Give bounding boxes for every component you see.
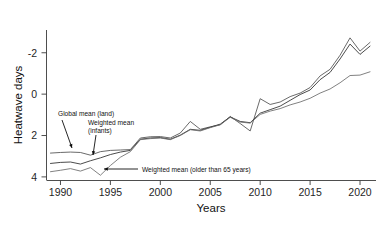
annotation-label: Global mean (land): [58, 110, 114, 118]
x-tick-label: 1995: [99, 186, 123, 198]
x-axis-title: Years: [197, 202, 226, 214]
x-tick-label: 1990: [49, 186, 73, 198]
x-tick-label: 2005: [199, 186, 223, 198]
x-tick-label: 2020: [348, 186, 372, 198]
x-tick-label: 2000: [149, 186, 173, 198]
annotation-label: (infants): [88, 127, 112, 135]
annotation-label: Weighted mean: [88, 119, 134, 127]
y-tick-label: -2: [28, 47, 37, 59]
y-axis-title: Heatwave days: [12, 65, 24, 144]
heatwave-days-line-chart: 420-2 1990199520002005201020152020 Globa…: [0, 0, 382, 226]
chart-figure: 420-2 1990199520002005201020152020 Globa…: [0, 0, 382, 226]
x-tick-label: 2010: [248, 186, 272, 198]
x-tick-label: 2015: [298, 186, 322, 198]
y-tick-label: 2: [31, 129, 37, 141]
annotation-label: Weighted mean (older than 65 years): [142, 166, 251, 174]
y-tick-label: 4: [31, 171, 37, 183]
y-tick-label: 0: [31, 88, 37, 100]
